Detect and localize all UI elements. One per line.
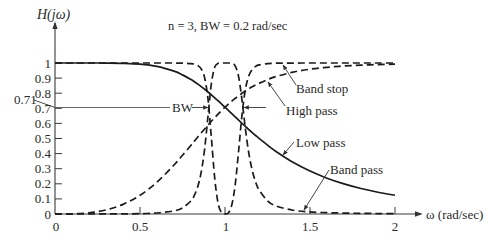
y-tick-label: 0.3 xyxy=(35,161,51,176)
bandwidth-label: BW xyxy=(172,100,194,115)
x-tick-label: 2 xyxy=(392,219,399,234)
band-pass-leader-arrow-icon xyxy=(304,170,329,210)
half-power-annotation: 0.71 BW xyxy=(14,92,266,115)
x-tick-label: 0 xyxy=(53,219,60,234)
x-tick-label: 0.5 xyxy=(132,219,148,234)
chart-title: n = 3, BW = 0.2 rad/sec xyxy=(168,19,288,33)
band-stop-leader-arrow-icon xyxy=(283,65,296,85)
butterworth-filter-chart: n = 3, BW = 0.2 rad/sec H(jω) ω (rad/sec… xyxy=(0,0,488,242)
high-pass-label: High pass xyxy=(286,103,338,118)
band-pass-label: Band pass xyxy=(330,162,383,177)
band-stop-label: Band stop xyxy=(296,81,348,96)
low-pass-label: Low pass xyxy=(296,135,345,150)
x-tick-label: 1 xyxy=(223,219,230,234)
y-tick-label: 0.1 xyxy=(35,191,51,206)
curve-labels: Band stop High pass Low pass Band pass xyxy=(268,65,383,210)
y-tick-label: 0 xyxy=(45,207,52,222)
y-ticks: 0 0.1 0.2 0.3 0.4 0.5 0.6 0.7 0.8 0.9 1 xyxy=(35,56,62,222)
y-axis-label: H(jω) xyxy=(36,7,71,23)
y-tick-label: 0.8 xyxy=(35,86,51,101)
low-pass-leader-arrow-icon xyxy=(283,142,294,155)
half-power-label: 0.71 xyxy=(14,92,37,107)
high-pass-leader-arrow-icon xyxy=(268,82,285,106)
y-tick-label: 0.6 xyxy=(35,116,52,131)
y-tick-label: 0.5 xyxy=(35,131,51,146)
x-axis-label: ω (rad/sec) xyxy=(426,207,483,222)
x-tick-label: 1.5 xyxy=(302,219,318,234)
y-tick-label: 0.4 xyxy=(35,146,52,161)
y-tick-label: 0.2 xyxy=(35,176,51,191)
y-tick-label: 0.9 xyxy=(35,71,51,86)
y-tick-label: 1 xyxy=(45,56,52,71)
